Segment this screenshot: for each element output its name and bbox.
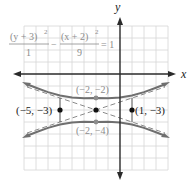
x-axis-arrow-right-icon <box>168 71 176 77</box>
hyperbola-graph: x y (−2, −2) (−2, −4) (−5, −3) (1, −3) (… <box>0 0 195 183</box>
eq-exp-1: 2 <box>44 28 48 36</box>
point-right <box>129 107 134 112</box>
x-axis-arrow-left-icon <box>13 71 21 77</box>
vertex-bottom-point <box>94 120 99 125</box>
vertex-top-point <box>94 96 99 101</box>
point-right-label: (1, −3) <box>135 104 165 117</box>
center-point <box>93 107 98 112</box>
x-axis-label: x <box>180 67 187 81</box>
point-left <box>57 107 62 112</box>
eq-exp-2: 2 <box>95 28 99 36</box>
vertex-top-label: (−2, −2) <box>76 84 109 96</box>
point-left-label: (−5, −3) <box>16 104 53 117</box>
y-axis-arrow-down-icon <box>117 172 123 180</box>
eq-rhs: = 1 <box>101 39 114 50</box>
eq-numerator-2: (x + 2) <box>61 31 88 43</box>
vertex-bottom-label: (−2, −4) <box>76 125 109 137</box>
eq-denominator-1: 1 <box>26 47 31 58</box>
y-axis-arrow-up-icon <box>117 17 123 25</box>
eq-numerator-1: (y + 3) <box>10 31 37 43</box>
eq-minus: − <box>51 39 57 50</box>
y-axis-label: y <box>114 0 121 14</box>
eq-denominator-2: 9 <box>77 47 82 58</box>
